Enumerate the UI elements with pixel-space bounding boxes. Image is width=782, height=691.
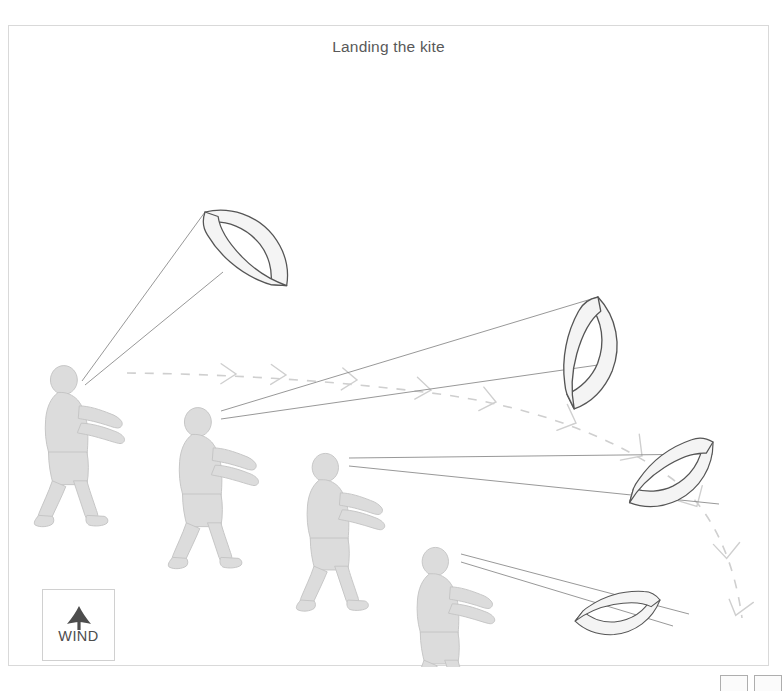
page-root: Landing the kite: [0, 0, 782, 691]
kite-2: [532, 292, 644, 415]
pager[interactable]: [720, 675, 782, 691]
kite-3: [618, 435, 725, 513]
wind-indicator: WIND: [42, 589, 115, 661]
stage-3: [296, 435, 725, 611]
person-1: [34, 366, 124, 527]
person-3: [296, 453, 384, 611]
wind-label: WIND: [58, 629, 98, 645]
kite-lines-2: [221, 297, 612, 419]
stage-2: [168, 292, 643, 568]
stage-1: [34, 189, 297, 527]
stage-4: [406, 547, 689, 667]
figure-frame: Landing the kite: [8, 25, 769, 666]
kite-lines-1: [82, 212, 223, 385]
kite-4: [574, 582, 661, 641]
pager-button-prev[interactable]: [720, 675, 748, 691]
person-2: [168, 408, 258, 569]
pager-button-next[interactable]: [754, 675, 782, 691]
kite-landing-diagram: [9, 26, 770, 667]
kite-1: [198, 189, 297, 307]
person-4: [406, 547, 494, 667]
kite-lines-4: [461, 554, 689, 626]
